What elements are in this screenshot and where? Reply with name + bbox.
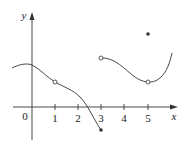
filled-point-x5 (146, 32, 150, 36)
tick-label-3: 3 (98, 112, 104, 124)
tick-label-2: 2 (75, 112, 81, 124)
tick-label-0: 0 (22, 110, 28, 122)
tick-label-5: 5 (145, 112, 151, 124)
tick-label-4: 4 (121, 112, 127, 124)
filled-point-x3 (99, 128, 103, 132)
y-axis-label: y (21, 9, 27, 21)
open-point-x1 (53, 80, 57, 84)
open-point-x3 (99, 56, 103, 60)
x-axis-label: x (171, 110, 177, 122)
curve-piece-2 (101, 53, 172, 82)
open-point-x5 (146, 80, 150, 84)
graph-canvas: 0 1 2 3 4 5 x y (0, 0, 191, 147)
x-axis-arrow-icon (170, 105, 178, 110)
y-axis-arrow-icon (30, 12, 35, 20)
function-graph: 0 1 2 3 4 5 x y (0, 0, 191, 147)
tick-label-1: 1 (52, 112, 58, 124)
